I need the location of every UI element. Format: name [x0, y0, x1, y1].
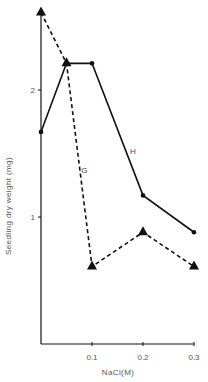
series	[36, 7, 199, 270]
data-point-triangle	[62, 57, 72, 66]
series-label-g: G	[81, 166, 87, 175]
series-h	[39, 61, 197, 235]
data-point-circle	[39, 130, 44, 135]
y-axis-label: Seedling dry weight (mg)	[4, 157, 13, 255]
series-label-h: H	[130, 147, 136, 156]
x-axis-label: NaCl(M)	[102, 368, 135, 377]
data-point-triangle	[87, 261, 97, 270]
x-tick-label: 0.1	[86, 353, 98, 362]
x-ticks: 0.10.20.3	[86, 342, 200, 362]
y-tick-label: 2	[31, 86, 36, 95]
data-point-circle	[192, 230, 197, 235]
series-line	[41, 13, 194, 267]
data-point-triangle	[36, 7, 46, 16]
chart: 0.10.20.3 12 NaCl(M) Seedling dry weight…	[0, 0, 208, 382]
data-point-circle	[141, 193, 146, 198]
series-labels: HG	[81, 147, 136, 175]
axes	[41, 12, 194, 344]
data-point-triangle	[138, 226, 148, 235]
series-line	[41, 63, 194, 232]
x-tick-label: 0.2	[137, 353, 149, 362]
series-g	[36, 7, 199, 270]
x-tick-label: 0.3	[188, 353, 200, 362]
y-ticks: 12	[31, 86, 41, 222]
data-point-circle	[90, 61, 95, 66]
y-tick-label: 1	[31, 213, 36, 222]
